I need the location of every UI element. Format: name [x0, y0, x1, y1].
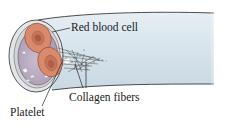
label-collagen-fibers: Collagen fibers	[69, 92, 140, 104]
label-platelet: Platelet	[10, 107, 45, 119]
label-red-blood-cell: Red blood cell	[71, 22, 138, 34]
